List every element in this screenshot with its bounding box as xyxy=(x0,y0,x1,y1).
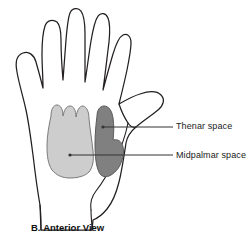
figure-caption: B. Anterior View xyxy=(31,222,104,233)
midpalmar-space-region xyxy=(47,105,93,178)
caption-title: Anterior View xyxy=(43,222,104,233)
anatomy-figure: Thenar space Midpalmar space B. Anterior… xyxy=(0,0,247,243)
hand-outline-anterior xyxy=(16,9,163,230)
caption-letter: B. xyxy=(31,222,41,233)
annotation-label-thenar-space: Thenar space xyxy=(176,121,232,131)
annotation-label-midpalmar-space: Midpalmar space xyxy=(176,150,246,160)
